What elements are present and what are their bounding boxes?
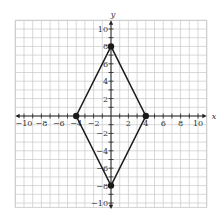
- x-tick-label: 2: [126, 119, 131, 128]
- arrow-up-icon: [109, 20, 113, 24]
- y-tick-label: 4: [103, 77, 108, 86]
- x-tick-label: 8: [178, 119, 183, 128]
- y-tick-label: 2: [103, 95, 108, 104]
- vertex-point: [73, 113, 79, 119]
- vertex-point: [108, 43, 114, 49]
- x-tick-label: −10: [16, 119, 33, 128]
- y-tick-label: −8: [96, 182, 108, 191]
- y-tick-label: −10: [91, 199, 108, 208]
- coordinate-plane: −10−8−6−4−2246810−10−8−6−4−2246810 x y: [0, 0, 222, 213]
- y-tick-label: 8: [103, 42, 108, 51]
- x-tick-label: −2: [88, 119, 100, 128]
- arrow-left-icon: [15, 114, 19, 118]
- arrow-right-icon: [202, 114, 206, 118]
- x-tick-label: 6: [161, 119, 166, 128]
- x-tick-label: −8: [36, 119, 48, 128]
- vertex-point: [143, 113, 149, 119]
- vertex-point: [108, 182, 114, 188]
- y-axis-label: y: [110, 10, 116, 19]
- y-tick-label: 10: [98, 25, 108, 34]
- x-tick-label: −6: [53, 119, 65, 128]
- arrow-down-icon: [109, 205, 113, 209]
- y-tick-label: −2: [96, 129, 108, 138]
- x-tick-label: 10: [193, 119, 203, 128]
- y-tick-label: −4: [96, 147, 108, 156]
- x-axis-label: x: [212, 112, 217, 121]
